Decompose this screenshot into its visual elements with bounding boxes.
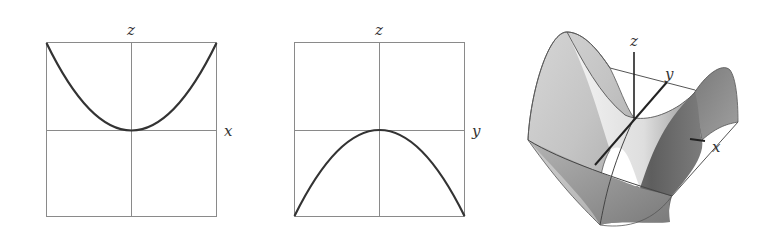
z-axis-label: z xyxy=(374,21,383,39)
panel-saddle-3d: z y x xyxy=(528,32,738,226)
panel-xz: z x xyxy=(46,21,233,217)
y-axis-label: y xyxy=(471,122,481,140)
y-axis-label: y xyxy=(664,65,674,83)
x-axis-label: x xyxy=(224,122,233,140)
box-edge xyxy=(610,68,695,90)
x-axis-label: x xyxy=(712,138,721,156)
z-axis-label: z xyxy=(126,21,135,39)
panel-yz: z y xyxy=(294,21,481,217)
figure-canvas: z x z y z y xyxy=(0,0,767,241)
z-axis-label: z xyxy=(629,32,638,50)
